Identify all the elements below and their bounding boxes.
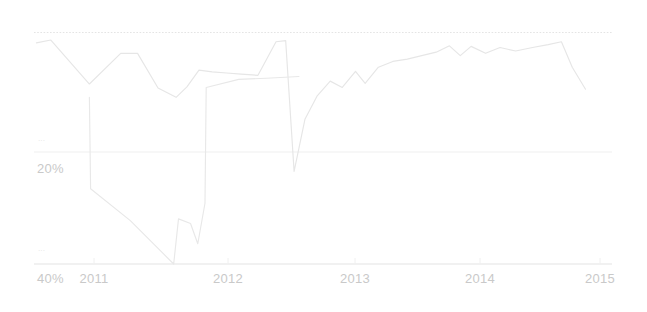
x-axis-label-2011: 2011: [79, 271, 108, 286]
x-axis-label-2012: 2012: [213, 271, 243, 286]
line-chart: ··· 20% ··· 40% 2011 2012 2013 2014 2015: [0, 0, 647, 312]
y-axis-label-40: 40%: [37, 271, 64, 286]
y-axis-label-20: 20%: [37, 161, 64, 176]
chart-container: ··· 20% ··· 40% 2011 2012 2013 2014 2015: [0, 0, 647, 312]
x-axis-label-2014: 2014: [465, 271, 495, 286]
x-axis-label-2015: 2015: [585, 271, 615, 286]
x-axis-label-2013: 2013: [340, 271, 370, 286]
y-tick-stub-20: ···: [38, 137, 45, 144]
chart-background: [0, 0, 647, 312]
y-tick-stub-40: ···: [38, 247, 45, 254]
